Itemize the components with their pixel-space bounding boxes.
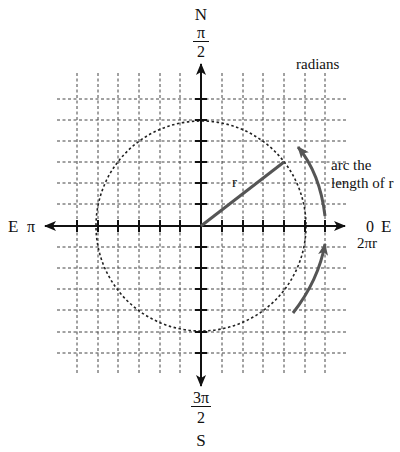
east-angle-label: 0 <box>366 218 374 235</box>
west-angle-label: π <box>27 218 35 235</box>
south-angle-numerator: 3π <box>193 389 209 406</box>
radius-label: r <box>232 174 237 190</box>
south-label: S <box>196 431 205 450</box>
north-angle-numerator: π <box>197 24 205 41</box>
radians-diagram: N π 2 3π 2 S E π 0 E 2πr r arc the lengt… <box>0 0 400 452</box>
arc-label-line1: arc the <box>331 157 372 173</box>
south-angle-denominator: 2 <box>197 409 205 426</box>
arc-arrow-lower <box>293 244 325 313</box>
arc-arrow-upper <box>298 147 325 216</box>
west-direction-label: E <box>8 217 18 236</box>
title-radians: radians <box>296 56 339 72</box>
north-angle-denominator: 2 <box>197 43 205 60</box>
east-full-circle-label: 2πr <box>357 235 377 251</box>
axes <box>45 64 345 386</box>
east-direction-label: E <box>381 217 391 236</box>
north-label: N <box>195 5 207 24</box>
arc-label-line2: length of r <box>331 175 393 191</box>
